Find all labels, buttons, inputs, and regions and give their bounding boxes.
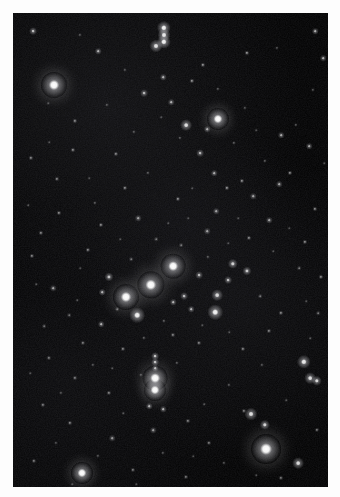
star <box>266 328 271 333</box>
star <box>236 216 240 220</box>
star <box>222 461 226 465</box>
star <box>72 118 77 123</box>
star <box>311 88 315 92</box>
star <box>150 40 163 53</box>
star <box>170 299 177 306</box>
star <box>243 106 247 110</box>
star <box>29 27 37 35</box>
star <box>232 141 236 145</box>
star <box>276 181 283 188</box>
star <box>122 185 127 190</box>
star <box>75 298 79 302</box>
star <box>170 332 175 337</box>
star <box>161 451 165 455</box>
star <box>46 101 50 105</box>
star <box>93 201 97 205</box>
star <box>132 130 136 134</box>
star <box>99 289 106 296</box>
star <box>161 254 186 279</box>
star <box>240 346 245 351</box>
star <box>271 249 275 253</box>
star <box>312 206 317 211</box>
star <box>196 340 201 345</box>
star <box>180 292 188 300</box>
star <box>287 226 291 230</box>
star <box>294 123 298 127</box>
star <box>239 178 244 183</box>
star <box>250 193 257 200</box>
star <box>54 441 58 445</box>
star <box>162 319 166 323</box>
star <box>135 215 142 222</box>
star <box>78 33 82 37</box>
star <box>139 373 143 377</box>
star <box>118 237 122 241</box>
star <box>157 21 171 35</box>
star <box>157 35 171 49</box>
star <box>245 408 258 421</box>
star <box>302 239 307 244</box>
star <box>175 196 180 201</box>
star <box>246 235 251 240</box>
star <box>242 266 251 275</box>
star <box>146 403 153 410</box>
star <box>129 307 145 323</box>
star <box>226 241 230 245</box>
star <box>191 454 195 458</box>
star <box>152 365 159 372</box>
star <box>260 363 264 367</box>
star <box>318 274 323 279</box>
star <box>144 379 166 401</box>
star <box>211 289 223 301</box>
star <box>278 132 285 139</box>
star <box>123 68 127 72</box>
star <box>95 48 102 55</box>
star <box>104 272 113 281</box>
star <box>284 398 288 402</box>
star <box>98 321 105 328</box>
star <box>47 140 51 144</box>
star <box>244 50 249 55</box>
star <box>34 282 38 286</box>
star <box>228 259 238 269</box>
star <box>70 482 74 486</box>
star <box>91 363 95 367</box>
star <box>188 306 195 313</box>
star <box>154 237 159 242</box>
star <box>106 390 111 395</box>
star <box>206 255 210 259</box>
star <box>113 151 118 156</box>
star <box>304 299 308 303</box>
star <box>322 161 326 165</box>
star <box>28 155 33 160</box>
star <box>109 435 116 442</box>
star <box>150 427 157 434</box>
star <box>297 266 302 271</box>
star <box>216 87 220 91</box>
star <box>202 402 206 406</box>
star <box>254 128 258 132</box>
star <box>71 462 93 484</box>
star <box>254 473 258 477</box>
star <box>251 434 281 464</box>
star <box>142 336 146 340</box>
star <box>137 271 164 298</box>
star <box>200 323 204 327</box>
star <box>297 355 311 369</box>
star <box>213 208 220 215</box>
star <box>130 467 135 472</box>
star <box>50 285 57 292</box>
star <box>314 427 319 432</box>
star <box>204 228 211 235</box>
star <box>207 304 223 320</box>
star <box>260 420 270 430</box>
star <box>308 336 312 340</box>
star <box>80 340 85 345</box>
star <box>200 62 205 67</box>
star <box>143 366 168 391</box>
star <box>190 186 194 190</box>
star <box>134 482 138 486</box>
star <box>204 126 211 133</box>
star <box>70 147 75 152</box>
star <box>312 376 322 386</box>
